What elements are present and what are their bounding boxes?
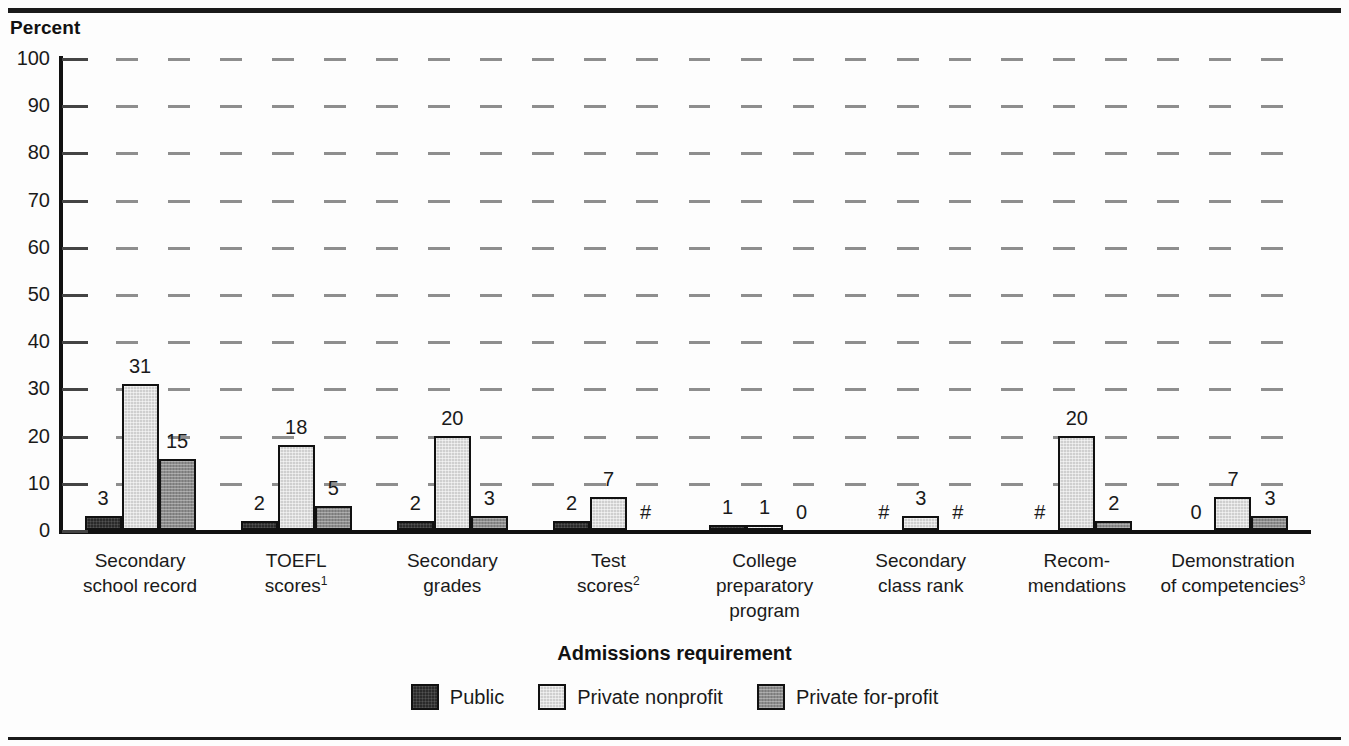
bar[interactable] <box>709 525 746 530</box>
gridline-dash <box>845 247 867 250</box>
gridline-dash <box>532 436 554 439</box>
bar-value-label: 31 <box>112 355 169 378</box>
y-axis-tick-label: 0 <box>0 519 50 542</box>
bar[interactable] <box>746 525 783 530</box>
bar-value-label: # <box>617 501 674 524</box>
bottom-rule <box>8 737 1341 740</box>
gridline-dash <box>689 388 711 391</box>
bar[interactable] <box>1058 436 1095 530</box>
gridline-dash <box>532 58 554 61</box>
category-label-line: Secondary <box>52 548 228 573</box>
gridline-dash <box>1157 58 1179 61</box>
bar-group: #202 <box>1021 58 1132 530</box>
gridline-dash <box>220 58 242 61</box>
legend-label: Private nonprofit <box>577 686 723 709</box>
gridline-dash <box>532 200 554 203</box>
x-axis-category-label: Recom-mendations <box>989 548 1165 598</box>
bar-value-label: 20 <box>1048 407 1105 430</box>
bar[interactable] <box>241 521 278 530</box>
x-axis-category-label: Secondaryclass rank <box>833 548 1009 598</box>
gridline-dash <box>689 105 711 108</box>
bar[interactable] <box>85 516 122 530</box>
x-axis-category-label: Testscores2 <box>520 548 696 598</box>
category-label-line: Recom- <box>989 548 1165 573</box>
bar[interactable] <box>1095 521 1132 530</box>
gridline-dash <box>845 341 867 344</box>
gridline-dash <box>376 341 398 344</box>
bar-group: 110 <box>709 58 820 530</box>
gridline-dash <box>1157 341 1179 344</box>
gridline-dash <box>845 483 867 486</box>
y-axis-tick-label: 40 <box>0 330 50 353</box>
y-axis-tick-label: 100 <box>0 47 50 70</box>
top-rule <box>8 8 1341 13</box>
gridline-dash <box>376 152 398 155</box>
legend-label: Public <box>450 686 504 709</box>
bar-value-label: 5 <box>305 477 362 500</box>
public-swatch <box>411 684 439 710</box>
gridline-dash <box>689 200 711 203</box>
gridline-dash <box>1157 436 1179 439</box>
gridline-dash <box>1157 247 1179 250</box>
gridline-dash <box>1001 436 1023 439</box>
gridline-dash <box>376 247 398 250</box>
gridline-dash <box>845 294 867 297</box>
gridline-dash <box>220 436 242 439</box>
bar-value-label: 20 <box>424 407 481 430</box>
footnote-marker: 3 <box>1299 574 1306 588</box>
legend-item[interactable]: Private for-profit <box>757 684 938 710</box>
bar-group: 2203 <box>397 58 508 530</box>
y-axis-tick-label: 20 <box>0 424 50 447</box>
gridline-dash <box>220 294 242 297</box>
gridline-dash <box>532 247 554 250</box>
legend-item[interactable]: Private nonprofit <box>538 684 723 710</box>
bar-value-label: 3 <box>461 487 518 510</box>
gridline-dash <box>689 341 711 344</box>
gridline-dash <box>845 58 867 61</box>
gridline-dash <box>689 58 711 61</box>
bar[interactable] <box>159 459 196 530</box>
bar[interactable] <box>397 521 434 530</box>
category-label-line: program <box>677 598 853 623</box>
bar[interactable] <box>471 516 508 530</box>
bar-value-label: 7 <box>580 468 637 491</box>
gridline-dash <box>689 247 711 250</box>
gridline-dash <box>1001 483 1023 486</box>
bar[interactable] <box>315 506 352 530</box>
gridline-dash <box>689 152 711 155</box>
category-label-line: mendations <box>989 573 1165 598</box>
y-axis-tick-label: 70 <box>0 188 50 211</box>
category-label-line: Secondary <box>364 548 540 573</box>
bar-value-label: 15 <box>149 430 206 453</box>
category-label-line: school record <box>52 573 228 598</box>
x-axis-category-label: Secondaryschool record <box>52 548 228 598</box>
gridline-dash <box>1157 200 1179 203</box>
plot-area: 331152185220327#110#3##202073 <box>62 58 1311 530</box>
gridline-dash <box>376 105 398 108</box>
bar[interactable] <box>553 521 590 530</box>
gridline-dash <box>1157 388 1179 391</box>
bar[interactable] <box>1251 516 1288 530</box>
bar-value-label: 18 <box>268 416 325 439</box>
footnote-marker: 1 <box>321 574 328 588</box>
gridline-dash <box>845 436 867 439</box>
gridline-dash <box>1157 152 1179 155</box>
gridline-dash <box>1157 483 1179 486</box>
y-axis-tick-label: 60 <box>0 235 50 258</box>
gridline-dash <box>532 388 554 391</box>
gridline-dash <box>220 341 242 344</box>
gridline-dash <box>1001 247 1023 250</box>
gridline-dash <box>376 58 398 61</box>
footnote-marker: 2 <box>633 574 640 588</box>
y-axis-tick-label: 50 <box>0 283 50 306</box>
bar[interactable] <box>122 384 159 530</box>
gridline-dash <box>1001 58 1023 61</box>
private-nonprofit-swatch <box>538 684 566 710</box>
legend-item[interactable]: Public <box>411 684 504 710</box>
bar[interactable] <box>434 436 471 530</box>
gridline-dash <box>376 294 398 297</box>
gridline-dash <box>220 388 242 391</box>
gridline-dash <box>1001 152 1023 155</box>
gridline-dash <box>220 483 242 486</box>
bar-group: #3# <box>865 58 976 530</box>
